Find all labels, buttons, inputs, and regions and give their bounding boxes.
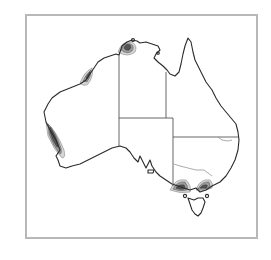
groote-eylandt [157, 52, 160, 55]
tasmania [188, 198, 205, 216]
flinders-island [205, 194, 208, 197]
hotspot-east-victoria [196, 180, 213, 191]
king-island [183, 194, 186, 197]
river-qld-nsw [218, 137, 232, 141]
border-nsw-vic [174, 164, 212, 176]
australia-map [0, 0, 271, 260]
kangaroo-island [148, 170, 154, 173]
mainland-coastline [44, 38, 239, 192]
